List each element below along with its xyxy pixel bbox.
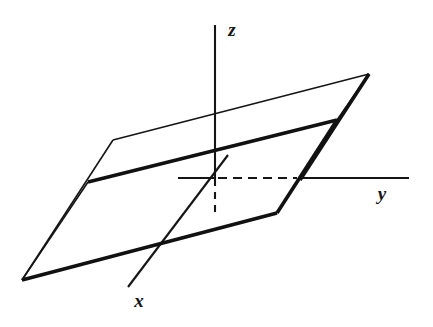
z-axis-label: z	[227, 19, 236, 40]
y-axis-label: y	[376, 183, 387, 204]
lower-plane-back-edge	[88, 120, 337, 182]
x-axis-line	[128, 155, 228, 287]
figure-canvas: z y x	[0, 0, 433, 327]
x-axis-label: x	[133, 290, 144, 311]
three-dimensional-plane-diagram: z y x	[0, 0, 433, 327]
